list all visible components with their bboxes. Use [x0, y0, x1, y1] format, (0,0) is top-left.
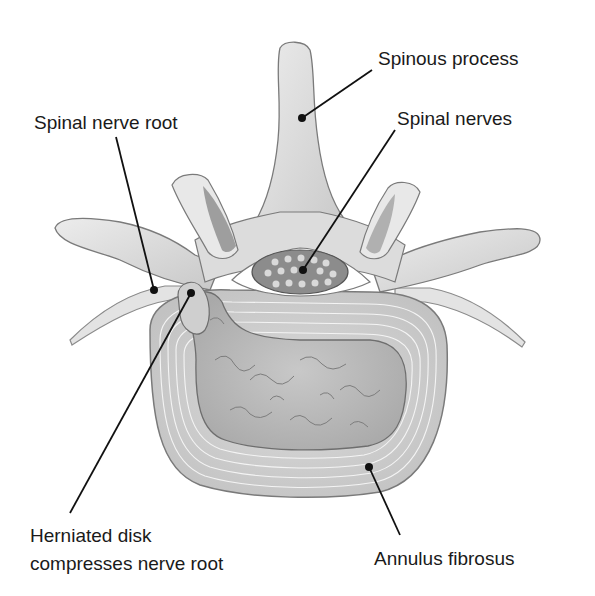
label-spinal-nerve-root: Spinal nerve root	[34, 112, 178, 134]
label-spinal-nerves: Spinal nerves	[397, 108, 512, 130]
label-annulus-fibrosus: Annulus fibrosus	[374, 548, 514, 570]
label-spinous-process: Spinous process	[378, 48, 518, 70]
vertebra-diagram	[0, 0, 595, 596]
label-herniated-disk: Herniated disk compresses nerve root	[30, 522, 223, 578]
